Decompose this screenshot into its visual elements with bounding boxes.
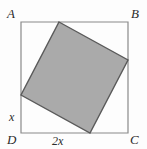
vertex-label-c: C (130, 133, 139, 146)
vertex-label-a: A (7, 7, 15, 20)
shaded-inscribed-square (21, 22, 128, 133)
side-length-label-x: x (9, 111, 14, 123)
geometry-figure: A B C D x 2x (0, 0, 147, 149)
geometry-canvas (0, 0, 147, 149)
vertex-label-b: B (131, 7, 139, 20)
side-length-label-2x: 2x (52, 135, 63, 147)
vertex-label-d: D (7, 133, 16, 146)
